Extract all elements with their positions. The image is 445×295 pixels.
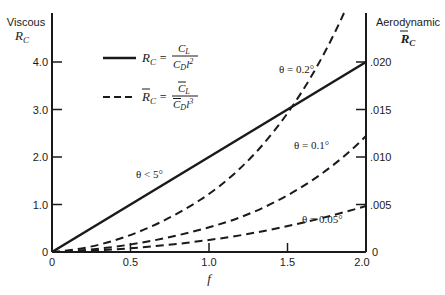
x-tick-label: 2.0 — [354, 256, 369, 268]
series-theta-02-curve — [52, 13, 344, 252]
y-left-tick-label: 3.0 — [33, 104, 48, 116]
right-axis-symbol: RC — [400, 31, 417, 48]
x-tick-label: 1.5 — [280, 256, 295, 268]
left-axis-symbol: RC — [14, 28, 30, 45]
left-axis-title: Viscous — [7, 16, 46, 28]
label-theta-lt5: θ < 5° — [136, 168, 163, 180]
y-left-tick-label: 2.0 — [33, 151, 48, 163]
y-left-tick-label: 1.0 — [33, 199, 48, 211]
y-left-tick-label: 0 — [42, 246, 48, 258]
x-tick-label: 0 — [49, 256, 55, 268]
chart: 4.0 3.0 2.0 1.0 0 .020 .015 .010 .005 0 … — [0, 0, 445, 295]
legend-eq-1-lhs: RC — [141, 50, 157, 67]
y-right-tick-label: .015 — [370, 104, 391, 116]
legend-eq-1-den: CDl2 — [173, 57, 193, 72]
legend-eq-2-lhs: RC — [141, 89, 157, 106]
x-axis-title: f — [207, 271, 213, 286]
x-tick-label: 1.0 — [201, 256, 216, 268]
y-right-tick-label: 0 — [372, 246, 378, 258]
legend-eq-1-equals: = — [159, 51, 167, 65]
legend-eq-2-num: CL — [178, 82, 190, 96]
label-theta-01: θ = 0.1° — [294, 139, 329, 151]
left-ticks — [52, 62, 62, 205]
x-tick-label: 0.5 — [123, 256, 138, 268]
label-theta-005: θ = 0.05° — [302, 213, 343, 225]
legend-eq-2-den: CDl3 — [173, 97, 193, 112]
y-right-tick-label: .020 — [370, 56, 391, 68]
legend-eq-2-equals: = — [159, 90, 167, 104]
right-ticks — [356, 62, 366, 205]
y-left-tick-label: 4.0 — [33, 56, 48, 68]
label-theta-02: θ = 0.2° — [279, 63, 314, 75]
y-right-tick-label: .010 — [370, 151, 391, 163]
legend: RC = CL CDl2 RC = CL CDl3 — [103, 42, 198, 112]
y-right-tick-label: .005 — [370, 199, 391, 211]
bottom-ticks — [131, 243, 288, 252]
legend-eq-1-num: CL — [178, 42, 190, 56]
right-axis-title: Aerodynamic — [376, 16, 441, 28]
